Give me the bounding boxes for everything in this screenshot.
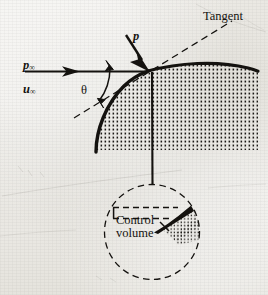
blunt-body	[96, 63, 258, 152]
surface-pressure-label: p	[133, 30, 139, 43]
tangent-label: Tangent	[203, 10, 243, 23]
control-volume-label-line2: volume	[116, 227, 154, 240]
control-volume-label: Control volume	[116, 214, 154, 240]
freestream-velocity-label: u∞	[23, 83, 35, 96]
freestream-pressure-label: p∞	[23, 59, 35, 72]
figure-canvas	[0, 0, 268, 295]
freestream-line	[25, 66, 148, 77]
control-volume-label-line1: Control	[116, 213, 154, 227]
inset-leader-line	[152, 72, 153, 184]
aerodynamics-figure: p∞ u∞ θ p Tangent Control volume	[0, 0, 268, 295]
angle-theta-label: θ	[81, 84, 87, 97]
